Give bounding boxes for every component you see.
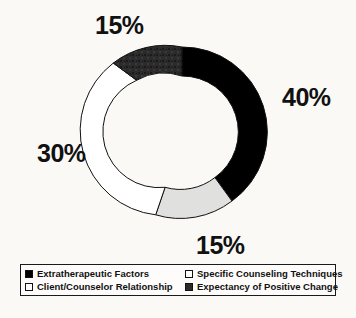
donut-chart-figure: 15% 40% 30% 15% Extratherapeutic Factors…	[0, 0, 356, 318]
donut-chart-graphic	[0, 0, 356, 258]
legend-item-expectancy-of-positive-change: Expectancy of Positive Change	[185, 280, 341, 293]
dark-gray-square-icon	[185, 283, 193, 291]
white-square-icon	[185, 270, 193, 278]
legend-item-extratherapeutic-factors: Extratherapeutic Factors	[25, 267, 185, 280]
slice-extratherapeutic-factors	[182, 47, 267, 201]
legend-item-label: Client/Counselor Relationship	[37, 282, 173, 292]
chart-legend: Extratherapeutic Factors Specific Counse…	[20, 264, 336, 296]
slice-client-counselor-relationship	[80, 63, 165, 215]
legend-item-client-counselor-relationship: Client/Counselor Relationship	[25, 280, 185, 293]
legend-item-label: Expectancy of Positive Change	[197, 282, 338, 292]
slice-label-right: 40%	[282, 85, 331, 110]
legend-item-label: Extratherapeutic Factors	[37, 269, 149, 279]
slice-label-top: 15%	[95, 13, 144, 38]
legend-item-label: Specific Counseling Techniques	[197, 269, 343, 279]
black-square-icon	[25, 270, 33, 278]
white-square-icon	[25, 283, 33, 291]
legend-item-specific-counseling-techniques: Specific Counseling Techniques	[185, 267, 341, 280]
slice-label-left: 30%	[37, 141, 86, 166]
chart-plot-area: 15% 40% 30% 15%	[0, 0, 356, 258]
slice-label-bottom: 15%	[196, 233, 245, 258]
